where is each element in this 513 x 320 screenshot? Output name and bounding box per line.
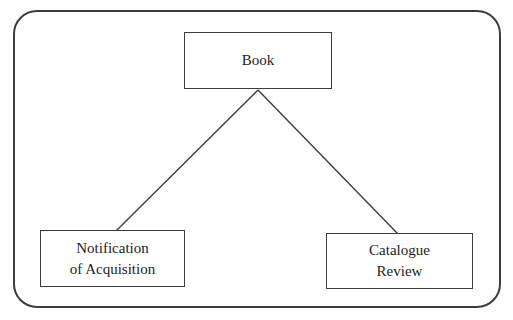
node-notification-label: Notification of Acquisition <box>70 238 155 280</box>
diagram-canvas: Book Notification of Acquisition Catalog… <box>0 0 513 320</box>
node-catalogue-review: Catalogue Review <box>326 233 473 289</box>
node-notification-of-acquisition: Notification of Acquisition <box>40 230 185 287</box>
node-book-label: Book <box>242 50 275 71</box>
node-book: Book <box>184 32 332 89</box>
node-catalogue-label: Catalogue Review <box>369 240 430 282</box>
